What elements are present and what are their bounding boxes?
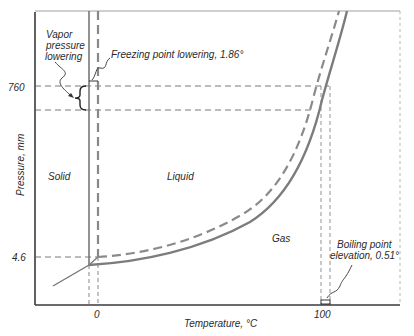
boiling-bracket	[321, 300, 330, 304]
region-solid: Solid	[48, 171, 71, 182]
region-gas: Gas	[272, 233, 290, 244]
x-tick-0: 0	[94, 309, 100, 320]
vapor-label-line3: lowering	[45, 51, 83, 62]
x-tick-100: 100	[314, 309, 331, 320]
y-axis-label: Pressure, mm	[15, 134, 26, 196]
freezing-arrow	[92, 58, 110, 80]
vapor-pressure-brace	[75, 86, 86, 110]
y-tick-760: 760	[8, 82, 25, 93]
freezing-label: Freezing point lowering, 1.86°	[111, 49, 243, 60]
boiling-label-line1: Boiling point	[337, 239, 393, 250]
vapor-arrow	[55, 62, 72, 97]
x-axis-label: Temperature, °C	[184, 318, 258, 329]
y-tick-4.6: 4.6	[12, 252, 26, 263]
vapor-label-line2: pressure	[45, 40, 85, 51]
boiling-label-line2: elevation, 0.51°	[330, 250, 399, 261]
vapor-curve-dashed	[98, 11, 339, 257]
sublimation-curve	[53, 257, 98, 286]
vapor-label-line1: Vapor	[46, 29, 73, 40]
boiling-arrow	[327, 265, 352, 298]
phase-diagram: 760 4.6 0 100 Temperature, °C Pressure, …	[0, 0, 414, 336]
region-liquid: Liquid	[167, 171, 194, 182]
